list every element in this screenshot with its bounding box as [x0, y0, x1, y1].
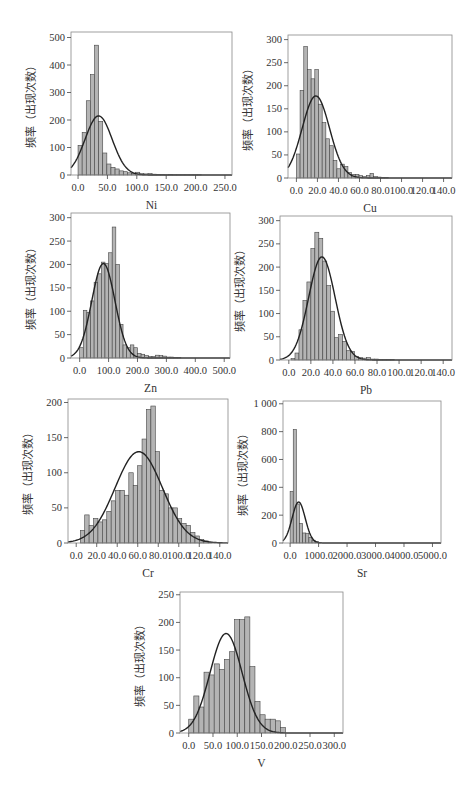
x-tick-label: 300.0: [155, 365, 179, 376]
bar: [107, 511, 111, 543]
bar: [296, 154, 300, 178]
x-tick-label: 140.0: [208, 550, 232, 561]
bar: [146, 410, 150, 543]
y-tick-label: 150: [49, 282, 65, 293]
y-tick-label: 250: [49, 236, 65, 247]
y-tick-label: 100: [258, 308, 274, 319]
y-tick-label: 200: [258, 262, 274, 273]
bar: [129, 473, 133, 543]
y-tick-label: 0: [269, 355, 274, 366]
x-tick-label: 0.0: [284, 550, 297, 561]
y-axis-label: 频率（出现次数）: [21, 427, 34, 515]
y-tick-label: 300: [266, 34, 282, 45]
y-tick-label: 150: [158, 645, 174, 656]
x-axis-label: Ni: [146, 199, 158, 211]
bar: [307, 70, 311, 178]
bar: [133, 485, 137, 543]
y-tick-label: 300: [258, 215, 274, 226]
y-tick-label: 200: [46, 397, 62, 408]
y-tick-label: 50: [52, 502, 63, 513]
x-tick-label: 20.0: [88, 550, 106, 561]
x-tick-label: 0.0: [182, 740, 195, 751]
y-axis-label: 频率（出现次数）: [241, 63, 254, 151]
x-tick-label: 40.0: [324, 367, 342, 378]
bar: [199, 707, 204, 733]
bar: [99, 121, 103, 175]
x-tick-label: 50.0: [204, 740, 222, 751]
x-tick-label: 200.0: [184, 182, 208, 193]
x-tick-label: 80.0: [368, 367, 386, 378]
bar: [219, 669, 224, 733]
bar: [160, 490, 164, 543]
bar: [111, 501, 115, 543]
bar: [138, 466, 142, 543]
bars: [291, 232, 394, 360]
bar: [94, 518, 98, 543]
x-tick-label: 150.0: [154, 182, 178, 193]
bar: [339, 334, 343, 360]
y-tick-label: 250: [266, 57, 282, 68]
y-tick-label: 0: [277, 173, 282, 184]
y-tick-label: 0: [272, 538, 277, 549]
bar: [95, 45, 99, 175]
x-tick-label: 200.0: [274, 740, 298, 751]
bar: [337, 169, 341, 178]
histogram-cr: 0501001502000.020.040.060.080.0100.0120.…: [21, 397, 232, 579]
y-tick-label: 800: [261, 426, 277, 437]
bar: [89, 525, 93, 543]
x-tick-label: 500.0: [212, 365, 236, 376]
y-tick-label: 50: [272, 149, 283, 160]
bar: [120, 490, 124, 543]
y-tick-label: 400: [261, 482, 277, 493]
x-tick-label: 80.0: [371, 185, 389, 196]
bar: [103, 153, 107, 175]
x-tick-label: 200.0: [126, 365, 150, 376]
x-axis-label: Cu: [363, 202, 377, 214]
x-tick-label: 300.0: [322, 740, 346, 751]
x-tick-label: 5000.0: [418, 550, 447, 561]
y-tick-label: 50: [264, 331, 275, 342]
bars: [78, 45, 201, 175]
bar: [109, 253, 113, 358]
y-tick-label: 50: [164, 700, 175, 711]
bar: [85, 515, 89, 543]
y-tick-label: 250: [258, 238, 274, 249]
bar: [98, 522, 102, 543]
y-tick-label: 0: [60, 170, 65, 181]
histogram-grid: 01002003004005000.050.0100.0150.0200.025…: [0, 0, 472, 786]
bar: [323, 261, 327, 360]
bar: [116, 490, 120, 543]
y-tick-label: 200: [49, 259, 65, 270]
x-tick-label: 0.0: [290, 185, 303, 196]
y-tick-label: 250: [158, 589, 174, 600]
x-tick-label: 2000.0: [333, 550, 362, 561]
x-tick-label: 60.0: [350, 185, 368, 196]
bar: [275, 721, 280, 733]
bar: [105, 264, 109, 358]
x-tick-label: 100.0: [225, 740, 249, 751]
bar: [347, 351, 351, 360]
histogram-ni: 01002003004005000.050.0100.0150.0200.025…: [24, 32, 237, 211]
x-axis-label: Zn: [144, 382, 157, 394]
bar: [214, 664, 219, 733]
x-tick-label: 80.0: [149, 550, 167, 561]
y-tick-label: 400: [49, 60, 65, 71]
figure-canvas: 01002003004005000.050.0100.0150.0200.025…: [0, 0, 472, 786]
y-tick-label: 600: [261, 454, 277, 465]
x-tick-label: 20.0: [308, 185, 326, 196]
x-tick-label: 20.0: [302, 367, 320, 378]
x-axis-label: Sr: [357, 567, 367, 579]
y-tick-label: 150: [46, 432, 62, 443]
bar: [151, 406, 155, 543]
x-tick-label: 100.0: [97, 365, 121, 376]
y-tick-label: 100: [49, 142, 65, 153]
y-tick-label: 150: [266, 103, 282, 114]
x-tick-label: 0.0: [282, 367, 295, 378]
y-tick-label: 100: [266, 126, 282, 137]
x-axis-label: V: [257, 757, 266, 769]
y-axis-label: 频率（出现次数）: [236, 428, 249, 516]
bar: [94, 282, 98, 358]
bar: [107, 164, 111, 175]
bar: [101, 262, 105, 358]
bar: [111, 167, 115, 175]
